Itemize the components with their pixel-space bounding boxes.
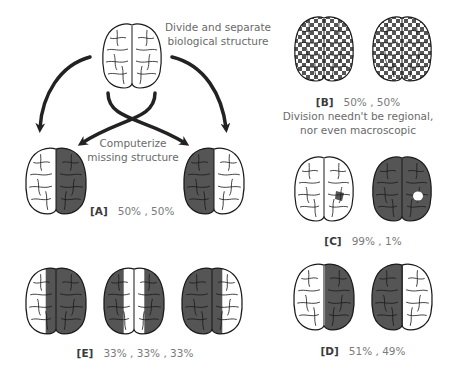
caption-line-2: biological structure (163, 34, 273, 48)
panel-a-label: [A] (90, 205, 108, 217)
panel-e-caption: [E] 33% , 33% , 33% (60, 346, 210, 360)
brain-e-2 (102, 266, 166, 336)
brain-e-1 (24, 266, 88, 336)
panel-b-caption: [B] 50% , 50% Division needn't be region… (262, 95, 454, 137)
caption-line-2: missing structure (83, 150, 183, 164)
panel-c-percent: 99% , 1% (352, 235, 402, 247)
panel-a-percent: 50% , 50% (118, 205, 175, 217)
panel-b-label: [B] (316, 96, 334, 108)
brain-d-right (370, 262, 434, 332)
panel-a-caption: [A] 50% , 50% (90, 204, 174, 218)
panel-d-caption: [D] 51% , 49% (292, 344, 434, 358)
brain-c-left (292, 155, 356, 223)
caption-line-1: Divide and separate (163, 20, 273, 34)
brain-a-right (182, 146, 246, 216)
caption-divide: Divide and separate biological structure (163, 20, 273, 48)
panel-c-caption: [C] 99% , 1% (292, 234, 434, 248)
panel-e-percent: 33% , 33% , 33% (103, 347, 193, 359)
brain-b-left (292, 15, 356, 83)
brain-b-right (370, 15, 434, 83)
brain-a-left (24, 146, 88, 216)
panel-b-note-line-2: nor even macroscopic (262, 123, 454, 137)
panel-d-label: [D] (320, 345, 338, 357)
arrow-left (40, 57, 90, 128)
caption-computerize: Computerize missing structure (83, 136, 183, 164)
brain-e-3 (180, 266, 244, 336)
panel-d-percent: 51% , 49% (349, 345, 406, 357)
panel-b-note-line-1: Division needn't be regional, (262, 109, 454, 123)
arrow-right (172, 57, 226, 128)
brain-d-left (292, 262, 356, 332)
panel-e-label: [E] (77, 347, 94, 359)
brain-c-right (370, 155, 434, 223)
brain-source (100, 22, 164, 90)
panel-b-percent: 50% , 50% (343, 96, 400, 108)
panel-c-label: [C] (324, 235, 341, 247)
caption-line-1: Computerize (83, 136, 183, 150)
